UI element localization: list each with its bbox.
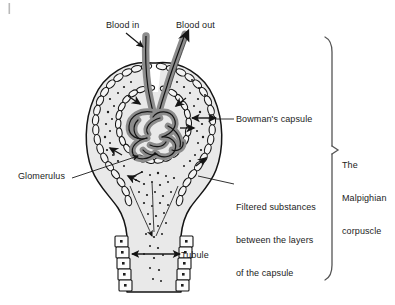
label-filtered-line-1: Filtered substances [236, 202, 316, 213]
label-blood-in: Blood in [106, 20, 139, 31]
label-bowmans-capsule: Bowman's capsule [236, 114, 312, 125]
label-filtered-line-2: between the layers [236, 235, 316, 246]
blood-in-leader [126, 33, 143, 47]
label-malpighian-line-1: The [342, 160, 387, 171]
label-malpighian-line-2: Malpighian [342, 193, 387, 204]
label-tubule: Tubule [181, 250, 209, 261]
label-malpighian-corpuscle: The Malpighian corpuscle [342, 138, 387, 259]
label-filtered-line-3: of the capsule [236, 268, 316, 279]
label-filtered-substances: Filtered substances between the layers o… [236, 180, 316, 301]
malpighian-corpuscle-bracket [325, 37, 338, 280]
diagram-page: Blood in Blood out Bowman's capsule Glom… [0, 0, 395, 305]
label-glomerulus: Glomerulus [18, 171, 65, 182]
label-blood-out: Blood out [176, 20, 215, 31]
corner-tick-icon [9, 3, 11, 14]
label-malpighian-line-3: corpuscle [342, 226, 387, 237]
